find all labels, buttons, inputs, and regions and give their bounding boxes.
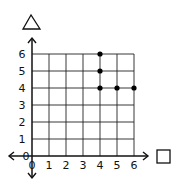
data-point	[97, 68, 102, 73]
y-tick-label: 1	[19, 133, 26, 146]
square-icon	[157, 150, 170, 163]
y-tick-label: 2	[19, 116, 26, 129]
x-tick-label: 0	[29, 159, 36, 172]
y-tick-label: 4	[19, 82, 26, 95]
y-tick-label: 5	[19, 65, 26, 78]
data-point	[97, 51, 102, 56]
y-tick-label: 0	[23, 150, 30, 163]
y-tick-label: 6	[19, 48, 26, 61]
x-tick-label: 1	[46, 159, 53, 172]
data-point	[131, 85, 136, 90]
axes	[9, 38, 148, 178]
x-tick-label: 3	[80, 159, 87, 172]
coordinate-grid-chart: 01234560123456	[0, 0, 178, 184]
x-tick-label: 4	[97, 159, 104, 172]
y-tick-label: 3	[19, 99, 26, 112]
grid-lines	[32, 54, 134, 156]
data-point	[97, 85, 102, 90]
x-tick-label: 6	[131, 159, 138, 172]
tick-labels: 01234560123456	[19, 48, 138, 172]
triangle-icon	[23, 15, 40, 29]
data-point	[114, 85, 119, 90]
x-tick-label: 5	[114, 159, 121, 172]
x-tick-label: 2	[63, 159, 70, 172]
